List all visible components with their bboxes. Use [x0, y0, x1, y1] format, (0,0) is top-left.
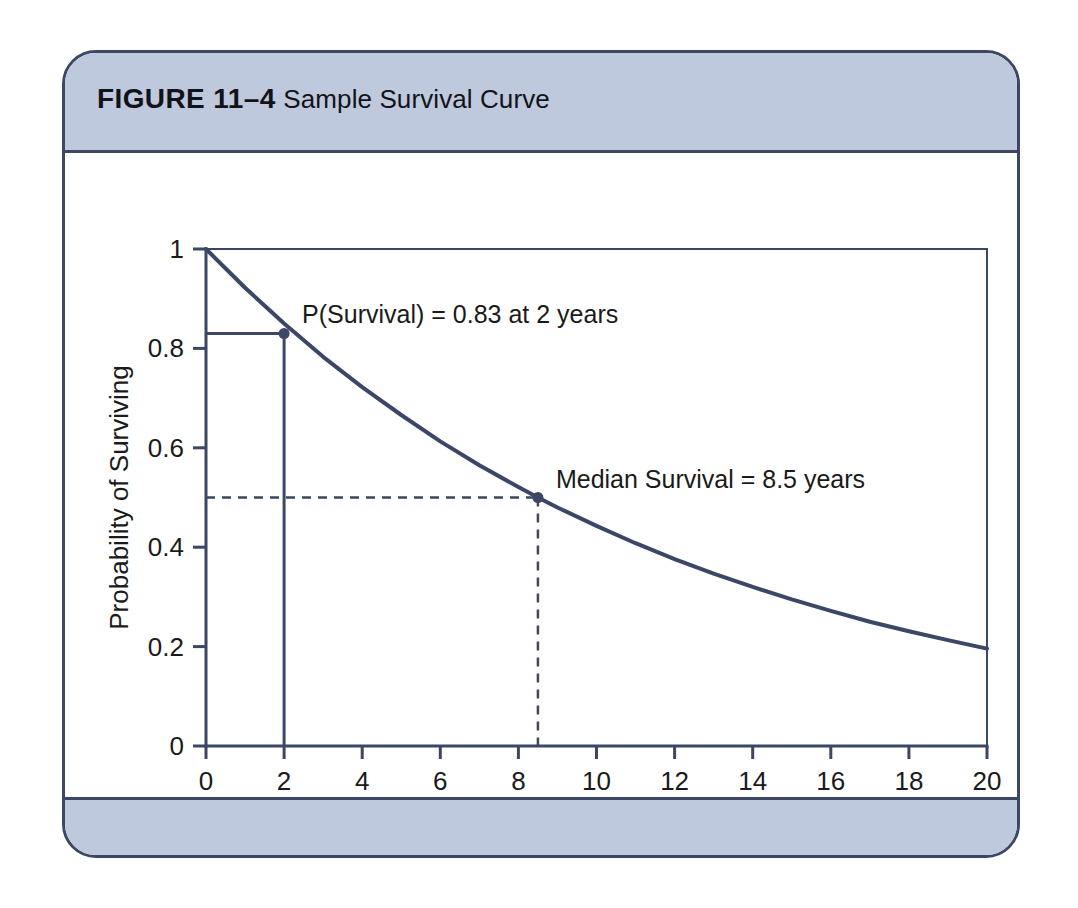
y-tick-label: 0.8: [148, 333, 184, 363]
x-tick-label: 18: [894, 766, 923, 796]
figure-number: FIGURE 11–4: [97, 83, 276, 114]
y-tick-label: 0.6: [148, 433, 184, 463]
x-tick-label: 6: [433, 766, 447, 796]
figure-card: FIGURE 11–4 Sample Survival Curve 00.20.…: [62, 50, 1020, 858]
x-tick-label: 8: [511, 766, 525, 796]
figure-page: FIGURE 11–4 Sample Survival Curve 00.20.…: [0, 0, 1078, 908]
survival-curve-chart: 00.20.40.60.8102468101214161820YearsProb…: [65, 153, 1017, 797]
annotation-marker-dot: [279, 328, 290, 339]
chart-tick-labels: 00.20.40.60.8102468101214161820YearsProb…: [104, 234, 1001, 800]
annotation-label: P(Survival) = 0.83 at 2 years: [302, 300, 618, 328]
x-tick-label: 16: [816, 766, 845, 796]
x-tick-label: 12: [660, 766, 689, 796]
figure-footer-band: [65, 797, 1017, 855]
figure-header-band: FIGURE 11–4 Sample Survival Curve: [65, 53, 1017, 153]
chart-canvas: 00.20.40.60.8102468101214161820YearsProb…: [65, 153, 1017, 800]
y-tick-label: 0.4: [148, 532, 184, 562]
y-tick-label: 0.2: [148, 632, 184, 662]
figure-body: 00.20.40.60.8102468101214161820YearsProb…: [65, 153, 1017, 797]
x-tick-label: 0: [199, 766, 213, 796]
x-tick-label: 10: [582, 766, 611, 796]
annotation-label: Median Survival = 8.5 years: [556, 465, 865, 493]
figure-title: FIGURE 11–4 Sample Survival Curve: [97, 83, 550, 115]
figure-caption: Sample Survival Curve: [283, 84, 550, 114]
x-tick-label: 20: [973, 766, 1002, 796]
y-tick-label: 0: [170, 731, 184, 761]
annotation-marker-dot: [532, 492, 543, 503]
x-tick-label: 4: [355, 766, 369, 796]
y-tick-label: 1: [170, 234, 184, 264]
x-tick-label: 14: [738, 766, 767, 796]
x-tick-label: 2: [277, 766, 291, 796]
y-axis-title: Probability of Surviving: [104, 365, 134, 629]
